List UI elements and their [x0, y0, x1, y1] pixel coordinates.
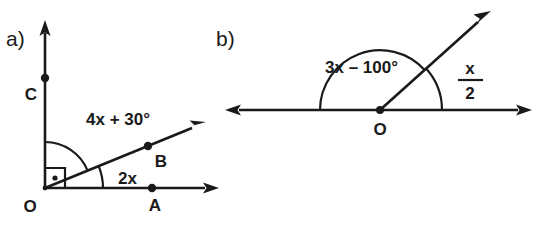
horizontal-line-left-arrowhead — [225, 105, 241, 116]
part-label-a: a) — [6, 27, 25, 50]
angle-label-4x-plus-30: 4x + 30° — [86, 110, 150, 129]
angle-label-x-over-2: x 2 — [458, 59, 483, 103]
ray-ob-arrowhead — [188, 121, 206, 128]
angle-arc-4x-plus-30 — [45, 142, 88, 171]
panel-a: a) O C B — [6, 20, 219, 216]
vertex-label-o-b: O — [373, 120, 386, 139]
vertex-o-dot-b — [376, 106, 384, 114]
fraction-denominator-2: 2 — [465, 84, 474, 103]
figure-svg: a) O C B — [0, 0, 544, 248]
right-angle-center-dot — [52, 175, 57, 180]
vertex-o-dot-a — [43, 186, 48, 191]
angle-label-2x: 2x — [118, 169, 137, 188]
angle-arc-x-over-2 — [426, 69, 442, 111]
point-b-dot — [144, 142, 152, 150]
angle-arc-2x — [99, 166, 103, 188]
point-label-b: B — [155, 152, 167, 171]
part-label-b: b) — [216, 27, 235, 50]
vertex-label-o-a: O — [23, 197, 36, 216]
angle-label-3x-minus-100: 3x – 100° — [325, 58, 398, 77]
point-c-dot — [41, 74, 49, 82]
geometry-figure: a) O C B — [0, 0, 544, 248]
point-label-a: A — [149, 196, 161, 215]
fraction-numerator-x: x — [465, 59, 475, 78]
point-a-dot — [148, 184, 156, 192]
horizontal-line-right-arrowhead — [516, 105, 532, 116]
ray-oa-arrowhead — [203, 183, 219, 194]
panel-b: b) O 3x – 100° x 2 — [216, 11, 532, 139]
point-label-c: C — [25, 85, 37, 104]
